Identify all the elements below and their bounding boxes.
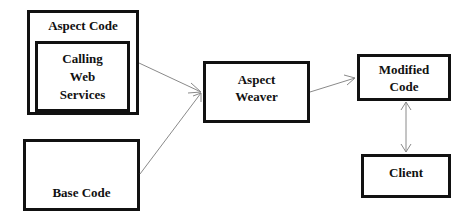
arrow-base-to-weaver [140,93,201,174]
connector-arrows [0,0,474,219]
arrow-aspect-to-weaver [139,63,201,92]
arrow-weaver-to-modified [310,78,355,92]
